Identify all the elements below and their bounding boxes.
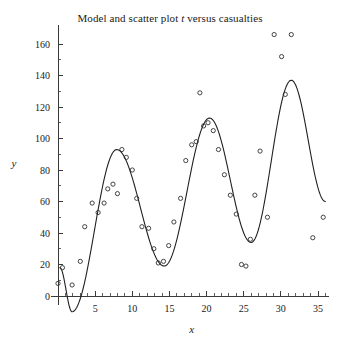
scatter-point (239, 262, 243, 266)
y-tick-label: 140 (35, 70, 50, 81)
scatter-point (272, 32, 276, 36)
scatter-point (280, 55, 284, 59)
scatter-point (244, 264, 248, 268)
scatter-point (184, 158, 188, 162)
x-axis-tick-labels: 5101520253035 (93, 303, 323, 314)
scatter-point (83, 225, 87, 229)
scatter-point (120, 147, 124, 151)
scatter-point (172, 220, 176, 224)
scatter-point (167, 244, 171, 248)
model-curve (60, 80, 326, 312)
y-tick-label: 80 (40, 165, 50, 176)
scatter-point (147, 226, 151, 230)
scatter-point (70, 283, 74, 287)
scatter-point (258, 149, 262, 153)
scatter-point (311, 236, 315, 240)
scatter-point (90, 201, 94, 205)
x-tick-label: 5 (93, 303, 98, 314)
chart-figure: Model and scatter plot t versus casualti… (0, 0, 340, 340)
scatter-point (228, 193, 232, 197)
scatter-point (216, 147, 220, 151)
x-tick-label: 10 (127, 303, 137, 314)
y-tick-label: 120 (35, 102, 50, 113)
axes-group (51, 25, 330, 305)
scatter-point (78, 259, 82, 263)
x-tick-label: 30 (276, 303, 286, 314)
scatter-plot-svg: 5101520253035 020406080100120140160 x y (0, 0, 340, 340)
y-tick-label: 100 (35, 133, 50, 144)
x-axis-ticks (65, 291, 325, 296)
scatter-point (106, 187, 110, 191)
scatter-point (190, 143, 194, 147)
scatter-points (56, 32, 325, 287)
y-tick-label: 40 (40, 228, 50, 239)
scatter-point (130, 168, 134, 172)
scatter-point (253, 193, 257, 197)
scatter-point (222, 173, 226, 177)
y-axis-label: y (11, 157, 17, 169)
scatter-point (211, 129, 215, 133)
x-tick-label: 15 (164, 303, 174, 314)
x-tick-label: 20 (202, 303, 212, 314)
scatter-point (178, 196, 182, 200)
x-axis-label: x (188, 323, 194, 335)
scatter-point (289, 32, 293, 36)
x-tick-label: 35 (313, 303, 323, 314)
y-tick-label: 20 (40, 259, 50, 270)
scatter-point (111, 182, 115, 186)
y-tick-label: 60 (40, 196, 50, 207)
y-axis-tick-labels: 020406080100120140160 (35, 39, 50, 302)
y-tick-label: 0 (45, 291, 50, 302)
y-axis-ticks (58, 44, 63, 296)
scatter-point (161, 259, 165, 263)
scatter-point (321, 215, 325, 219)
scatter-point (198, 91, 202, 95)
scatter-point (102, 201, 106, 205)
y-tick-label: 160 (35, 39, 50, 50)
scatter-point (115, 192, 119, 196)
scatter-point (206, 121, 210, 125)
scatter-point (265, 215, 269, 219)
scatter-point (140, 225, 144, 229)
scatter-point (248, 237, 252, 241)
x-tick-label: 25 (239, 303, 249, 314)
scatter-point (60, 266, 64, 270)
